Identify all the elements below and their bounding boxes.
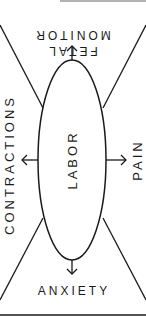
top-label-line1: MONITOR: [33, 28, 110, 42]
arrow-down-icon: [67, 260, 77, 274]
left-label: CONTRACTIONS: [2, 95, 17, 235]
bottom-label: ANXIETY: [38, 284, 110, 298]
labor-diagram: LABOR MONITOR FETAL CONTRACTIONS PAIN AN…: [0, 0, 146, 322]
arrow-left-icon: [22, 155, 38, 165]
top-label-line2: FETAL: [46, 44, 97, 58]
right-label: PAIN: [130, 139, 145, 180]
diagram-svg: LABOR MONITOR FETAL CONTRACTIONS PAIN AN…: [0, 0, 146, 322]
arrow-right-icon: [106, 155, 126, 165]
top-node: MONITOR FETAL: [33, 28, 110, 58]
center-label: LABOR: [65, 130, 80, 189]
